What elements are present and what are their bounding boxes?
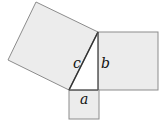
pythagorean-diagram: c b a [0,0,165,128]
label-c: c [73,55,81,71]
label-a: a [80,91,88,107]
label-b: b [101,55,110,71]
